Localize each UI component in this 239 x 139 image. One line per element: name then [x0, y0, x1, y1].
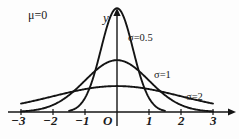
x-tick-label: −1	[75, 114, 89, 127]
x-tick-label: −2	[43, 114, 57, 127]
x-axis-arrowhead	[228, 108, 236, 115]
curve-label-sigma-0-5: σ=0.5	[128, 33, 153, 44]
x-tick-label: 3	[210, 114, 217, 127]
x-tick-label: 2	[178, 114, 185, 127]
origin-label: O	[103, 114, 112, 127]
curve-label-sigma-2: σ=2	[186, 92, 203, 103]
normal-distribution-figure: μ=0 y O σ=0.5 σ=1 σ=2 −3−2−1123	[0, 0, 239, 139]
x-tick-label: −3	[11, 114, 25, 127]
x-tick-label: 1	[146, 114, 153, 127]
mu-annotation: μ=0	[28, 9, 47, 21]
curve-label-sigma-1: σ=1	[154, 70, 171, 81]
y-axis-label: y	[103, 11, 109, 24]
